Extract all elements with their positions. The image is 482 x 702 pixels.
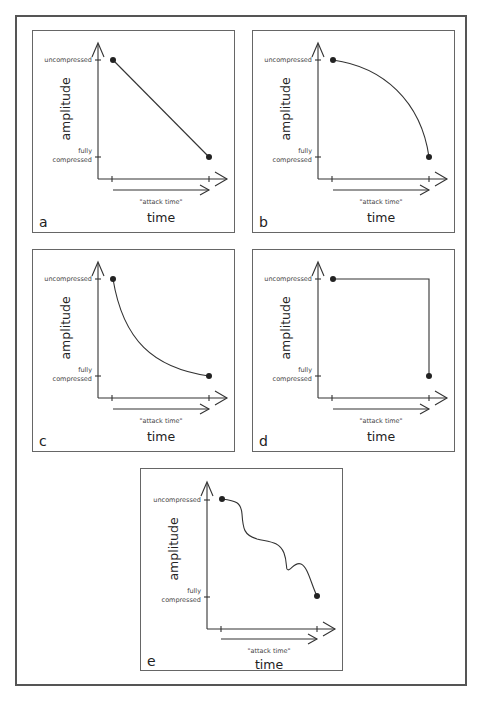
y-axis-label: amplitude [58, 77, 73, 140]
x-axis-label: time [255, 657, 284, 672]
y-tick-label-top: uncompressed [153, 496, 201, 504]
attack-time-label: "attack time" [247, 647, 290, 655]
x-axis-label: time [367, 429, 396, 444]
y-tick-label-bottom-1: fully [187, 587, 201, 595]
y-tick-label-bottom-1: fully [298, 366, 312, 374]
y-tick-label-bottom-1: fully [78, 147, 92, 155]
panel-letter: d [259, 433, 268, 449]
y-tick-label-bottom-1: fully [78, 366, 92, 374]
end-point [206, 373, 212, 379]
y-tick-label-bottom-2: compressed [53, 375, 92, 383]
start-point [110, 276, 116, 282]
panel-e: uncompressed fully compressed amplitude … [140, 468, 343, 671]
end-point [206, 154, 212, 160]
end-point [314, 593, 320, 599]
y-tick-label-bottom-1: fully [298, 147, 312, 155]
y-tick-label-top: uncompressed [44, 56, 92, 64]
x-axis-label: time [147, 210, 176, 225]
y-axis-label: amplitude [166, 517, 181, 580]
y-tick-label-bottom-2: compressed [53, 156, 92, 164]
y-tick-label-bottom-2: compressed [273, 156, 312, 164]
panel-d: uncompressed fully compressed amplitude … [252, 249, 455, 452]
panel-a: uncompressed fully compressed amplitude … [32, 30, 235, 233]
start-point [219, 496, 225, 502]
y-tick-label-bottom-2: compressed [273, 375, 312, 383]
compression-curve [113, 279, 209, 376]
end-point [426, 154, 432, 160]
attack-time-label: "attack time" [359, 417, 402, 425]
attack-time-label: "attack time" [359, 198, 402, 206]
y-axis-label: amplitude [278, 77, 293, 140]
attack-curve-chart-c: uncompressed fully compressed amplitude … [33, 250, 236, 453]
attack-curve-chart-e: uncompressed fully compressed amplitude … [141, 469, 344, 672]
compression-curve [222, 499, 317, 596]
panel-letter: b [259, 214, 268, 230]
attack-curve-chart-b: uncompressed fully compressed amplitude … [253, 31, 456, 234]
attack-time-label: "attack time" [139, 417, 182, 425]
start-point [330, 276, 336, 282]
y-tick-label-top: uncompressed [44, 275, 92, 283]
panel-letter: c [39, 433, 47, 449]
x-axis-label: time [147, 429, 176, 444]
start-point [330, 57, 336, 63]
y-axis-label: amplitude [278, 296, 293, 359]
compression-curve [333, 279, 429, 376]
y-tick-label-top: uncompressed [264, 56, 312, 64]
x-axis-label: time [367, 210, 396, 225]
panel-c: uncompressed fully compressed amplitude … [32, 249, 235, 452]
compression-curve [113, 60, 209, 157]
compression-curve [333, 60, 429, 157]
panel-letter: a [39, 214, 48, 230]
panel-letter: e [147, 653, 156, 669]
attack-curve-chart-a: uncompressed fully compressed amplitude … [33, 31, 236, 234]
panel-b: uncompressed fully compressed amplitude … [252, 30, 455, 233]
start-point [110, 57, 116, 63]
y-tick-label-bottom-2: compressed [162, 596, 201, 604]
y-tick-label-top: uncompressed [264, 275, 312, 283]
attack-curve-chart-d: uncompressed fully compressed amplitude … [253, 250, 456, 453]
end-point [426, 373, 432, 379]
attack-time-label: "attack time" [139, 198, 182, 206]
y-axis-label: amplitude [58, 296, 73, 359]
